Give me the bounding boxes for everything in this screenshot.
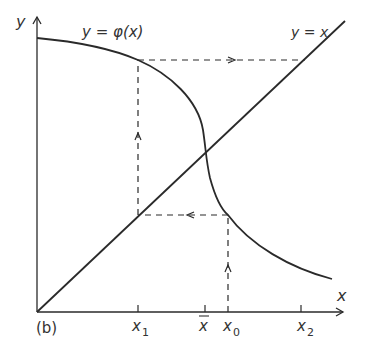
svg-text:x: x [222, 317, 232, 335]
tick-label-x1: x 1 [131, 317, 149, 339]
x-axis-label: x [336, 286, 347, 305]
x-ticks [138, 305, 301, 312]
tick-label-x0: x 0 [222, 317, 240, 339]
tick-label-x2: x 2 [296, 317, 314, 339]
svg-text:1: 1 [142, 326, 149, 339]
phi-curve-label: y = φ(x) [81, 23, 143, 41]
cobweb-diagram: y x y = φ(x) y = x (b) x 1 x x 0 x 2 [0, 0, 365, 350]
cobweb-arrows [135, 57, 235, 272]
panel-label: (b) [36, 319, 57, 337]
y-axis-label: y [15, 12, 26, 31]
svg-text:x: x [131, 317, 141, 335]
svg-text:x: x [296, 317, 306, 335]
svg-text:0: 0 [233, 326, 240, 339]
svg-text:2: 2 [307, 326, 314, 339]
tick-label-xbar: x [198, 316, 209, 335]
cobweb-path [138, 60, 305, 312]
identity-line-label: y = x [290, 24, 329, 40]
svg-text:x: x [198, 317, 208, 335]
